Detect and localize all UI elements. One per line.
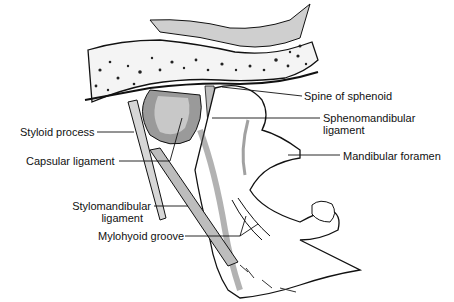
skull-base-bone [85, 4, 318, 102]
label-spine-of-sphenoid: Spine of sphenoid [304, 90, 392, 102]
label-mandibular-foramen: Mandibular foramen [343, 150, 441, 162]
label-mylohyoid-groove: Mylohyoid groove [98, 230, 184, 242]
label-stylomandibular-line2: ligament [60, 212, 143, 224]
joint-capsule [143, 90, 202, 144]
label-styloid-process: Styloid process [20, 126, 95, 138]
anatomy-figure: Spine of sphenoid Sphenomandibular ligam… [0, 0, 454, 302]
label-stylomandibular-line1: Stylomandibular [60, 200, 151, 212]
label-sphenomandibular-line1: Sphenomandibular [323, 112, 415, 124]
label-sphenomandibular-line2: ligament [323, 124, 365, 136]
label-capsular-ligament: Capsular ligament [26, 155, 115, 167]
